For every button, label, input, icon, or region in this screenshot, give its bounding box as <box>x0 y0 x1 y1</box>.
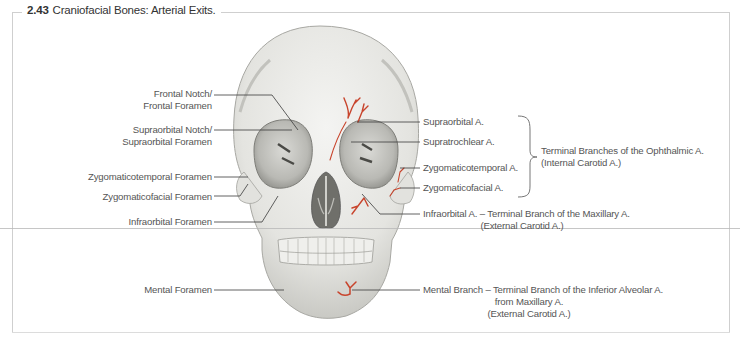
label-line: (External Carotid A.) <box>423 220 607 232</box>
bracket-brace <box>518 116 537 197</box>
label-line: Infraorbital A. – Terminal Branch of the… <box>423 208 607 220</box>
label-line: Zygomaticotemporal Foramen <box>60 171 212 183</box>
label-zygomaticofacial-foramen: Zygomaticofacial Foramen <box>60 191 212 203</box>
label-zygomaticofacial-artery: Zygomaticofacial A. <box>423 182 503 194</box>
label-supraorbital-artery: Supraorbital A. <box>423 116 484 128</box>
label-line: Infraorbital Foramen <box>60 216 212 228</box>
label-line: Supraorbital Foramen <box>90 136 212 148</box>
label-frontal-notch: Frontal Notch/ Frontal Foramen <box>110 88 212 112</box>
label-mental-branch: Mental Branch – Terminal Branch of the I… <box>423 284 629 320</box>
label-line: Zygomaticofacial Foramen <box>60 191 212 203</box>
label-infraorbital-artery: Infraorbital A. – Terminal Branch of the… <box>423 208 607 232</box>
label-zygomaticotemporal-artery: Zygomaticotemporal A. <box>423 162 518 174</box>
label-line: Terminal Branches of the Ophthalmic A. <box>541 145 704 157</box>
label-line: from Maxillary A. <box>423 296 629 308</box>
label-line: (External Carotid A.) <box>423 308 629 320</box>
label-ophthalmic-terminal-branches: Terminal Branches of the Ophthalmic A. (… <box>541 145 704 169</box>
label-line: Frontal Notch/ <box>110 88 212 100</box>
label-line: (Internal Carotid A.) <box>541 157 704 169</box>
label-line: Mental Branch – Terminal Branch of the I… <box>423 284 629 296</box>
teeth <box>278 237 374 265</box>
label-supraorbital-notch: Supraorbital Notch/ Supraorbital Foramen <box>90 124 212 148</box>
label-line: Frontal Foramen <box>110 100 212 112</box>
label-infraorbital-foramen: Infraorbital Foramen <box>60 216 212 228</box>
label-supratrochlear-artery: Supratrochlear A. <box>423 136 495 148</box>
label-line: Mental Foramen <box>60 284 212 296</box>
stray-horizontal-rule <box>0 228 740 229</box>
label-mental-foramen: Mental Foramen <box>60 284 212 296</box>
label-zygomaticotemporal-foramen: Zygomaticotemporal Foramen <box>60 171 212 183</box>
label-line: Supraorbital Notch/ <box>90 124 212 136</box>
